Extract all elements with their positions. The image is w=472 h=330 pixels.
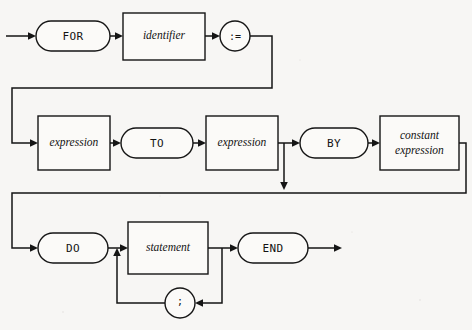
connector-expression2-by [278, 139, 300, 147]
node-for[interactable]: FOR [36, 21, 110, 51]
node-constant-expression-label-line2: expression [395, 144, 444, 157]
scan-noise [62, 59, 420, 312]
node-assign-label: := [229, 31, 241, 42]
node-to-label: TO [150, 137, 164, 150]
syntax-diagram-canvas: FOR identifier := [0, 0, 472, 330]
connector-expression1-to [110, 139, 121, 147]
node-by-label: BY [327, 137, 341, 150]
node-do[interactable]: DO [38, 233, 108, 263]
entry-arrow [6, 32, 36, 40]
exit-arrow [308, 244, 342, 252]
node-semicolon-label: ; [177, 296, 183, 307]
node-by[interactable]: BY [300, 128, 368, 158]
connector-for-identifier [110, 32, 123, 40]
railroad-diagram-svg: FOR identifier := [0, 0, 472, 330]
node-expression-1-label: expression [50, 136, 99, 149]
node-end-label: END [262, 242, 283, 255]
connector-to-expression2 [193, 139, 206, 147]
node-constant-expression[interactable]: constant expression [380, 116, 459, 170]
node-semicolon[interactable]: ; [165, 288, 195, 318]
connector-by-constant-expression [368, 139, 380, 147]
node-assign[interactable]: := [220, 21, 250, 51]
node-do-label: DO [66, 242, 80, 255]
node-expression-1[interactable]: expression [38, 116, 110, 170]
node-constant-expression-label-line1: constant [400, 129, 440, 141]
node-identifier[interactable]: identifier [123, 13, 205, 60]
node-expression-2[interactable]: expression [206, 116, 278, 170]
node-end[interactable]: END [238, 233, 308, 263]
node-to[interactable]: TO [121, 128, 193, 158]
by-bypass-path [280, 143, 288, 190]
node-statement-label: statement [146, 241, 191, 253]
node-for-label: FOR [62, 30, 83, 43]
node-statement[interactable]: statement [128, 222, 208, 274]
node-expression-2-label: expression [218, 136, 267, 149]
connector-statement-end [208, 244, 238, 252]
connector-identifier-assign [205, 32, 220, 40]
node-identifier-label: identifier [143, 29, 186, 42]
